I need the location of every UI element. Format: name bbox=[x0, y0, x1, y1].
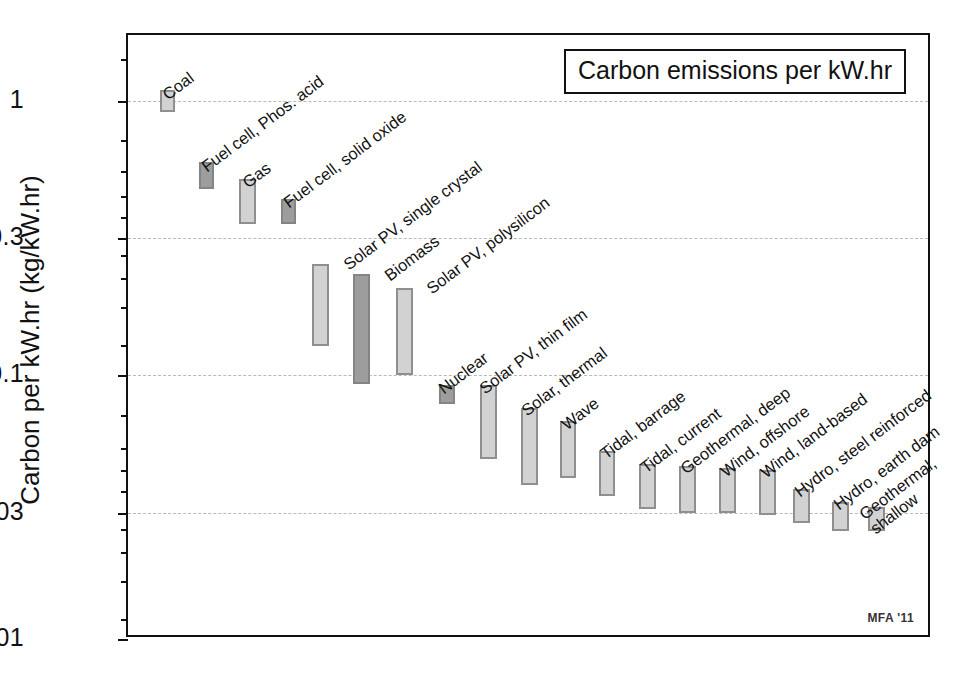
y-axis-tick-label: 1 bbox=[10, 85, 24, 114]
y-axis-minor-tick bbox=[121, 255, 128, 257]
y-axis-minor-tick bbox=[121, 619, 128, 621]
gridline bbox=[128, 101, 928, 102]
y-axis-minor-tick bbox=[121, 196, 128, 198]
y-axis-minor-tick bbox=[121, 415, 128, 417]
gridline bbox=[128, 375, 928, 376]
category-label: Solar PV, polysilicon bbox=[424, 194, 553, 297]
y-axis-minor-tick bbox=[121, 59, 128, 61]
y-axis-minor-tick bbox=[121, 448, 128, 450]
range-bar bbox=[353, 274, 370, 384]
category-label: Fuel cell, solid oxide bbox=[281, 108, 410, 211]
y-axis-minor-tick bbox=[121, 345, 128, 347]
y-axis-minor-tick bbox=[121, 552, 128, 554]
y-axis-minor-tick bbox=[121, 529, 128, 531]
y-axis-major-tick bbox=[118, 375, 128, 377]
gridline bbox=[128, 238, 928, 239]
chart-canvas: CoalFuel cell, Phos. acidGasFuel cell, s… bbox=[0, 0, 968, 680]
category-label-line: Wave bbox=[559, 394, 603, 433]
plot-area: CoalFuel cell, Phos. acidGasFuel cell, s… bbox=[126, 33, 930, 637]
y-axis-minor-tick bbox=[121, 470, 128, 472]
y-axis-minor-tick bbox=[121, 491, 128, 493]
y-axis-tick-label: 0.01 bbox=[0, 623, 24, 652]
y-axis-major-tick bbox=[118, 513, 128, 515]
category-label-line: Coal bbox=[160, 69, 198, 103]
y-axis-minor-tick bbox=[121, 278, 128, 280]
y-axis-minor-tick bbox=[121, 140, 128, 142]
y-axis-minor-tick bbox=[121, 307, 128, 309]
category-label: Wave bbox=[559, 394, 603, 433]
y-axis-major-tick bbox=[118, 238, 128, 240]
category-label-line: Fuel cell, solid oxide bbox=[281, 108, 410, 211]
credit-note: MFA '11 bbox=[867, 611, 914, 625]
range-bar bbox=[396, 288, 413, 375]
y-axis-major-tick bbox=[118, 101, 128, 103]
range-bar bbox=[521, 408, 538, 485]
y-axis-minor-tick bbox=[121, 581, 128, 583]
category-label: Coal bbox=[160, 69, 198, 103]
y-axis-title-wrap: Carbon per kW.hr (kg/kW.hr) bbox=[34, 0, 35, 680]
y-axis-minor-tick bbox=[121, 171, 128, 173]
y-axis-major-tick bbox=[118, 639, 128, 641]
chart-title-box: Carbon emissions per kW.hr bbox=[564, 49, 906, 94]
y-axis-minor-tick bbox=[121, 217, 128, 219]
category-label-line: Solar PV, polysilicon bbox=[424, 194, 553, 297]
range-bar bbox=[312, 264, 329, 346]
y-axis-title: Carbon per kW.hr (kg/kW.hr) bbox=[15, 175, 46, 504]
